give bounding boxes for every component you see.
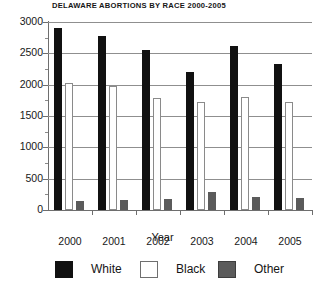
bar-other-2003 — [208, 192, 216, 210]
y-axis-label-0: 0 — [1, 204, 43, 215]
bar-group-2002 — [136, 22, 180, 210]
bar-chart: DELAWARE ABORTIONS BY RACE 2000-2005 050… — [0, 0, 325, 301]
bar-black-2004 — [241, 97, 249, 210]
chart-title: DELAWARE ABORTIONS BY RACE 2000-2005 — [52, 1, 302, 10]
y-axis-label-1500: 1500 — [1, 110, 43, 121]
y-tick-0 — [43, 210, 48, 211]
x-axis-title: Year — [0, 231, 325, 243]
bar-group-2001 — [92, 22, 136, 210]
bar-group-2004 — [224, 22, 268, 210]
hollow-white-swatch — [140, 261, 158, 278]
plot-area: 200020012002200320042005 — [48, 22, 312, 210]
solid-black-swatch — [55, 261, 73, 278]
bar-black-2001 — [109, 86, 117, 210]
bar-group-2005 — [268, 22, 312, 210]
bar-other-2002 — [164, 199, 172, 210]
bar-other-2005 — [296, 198, 304, 210]
y-axis-label-500: 500 — [1, 173, 43, 184]
bar-black-2000 — [65, 83, 73, 210]
bar-white-2004 — [230, 46, 238, 210]
x-tick-2004 — [268, 210, 269, 215]
bar-black-2002 — [153, 98, 161, 210]
y-axis-label-2000: 2000 — [1, 79, 43, 90]
bar-black-2005 — [285, 102, 293, 210]
bar-group-2000 — [48, 22, 92, 210]
y-axis-label-2500: 2500 — [1, 47, 43, 58]
bar-other-2004 — [252, 197, 260, 210]
y-axis-label-3000: 3000 — [1, 16, 43, 27]
x-tick-2005 — [312, 210, 313, 215]
legend-label-black: Black — [176, 261, 205, 278]
bar-other-2000 — [76, 201, 84, 210]
bar-white-2000 — [54, 28, 62, 210]
chart-legend: WhiteBlackOther — [0, 258, 325, 288]
bar-white-2002 — [142, 50, 150, 210]
bar-other-2001 — [120, 200, 128, 210]
legend-label-white: White — [91, 261, 122, 278]
y-axis-label-1000: 1000 — [1, 141, 43, 152]
x-tick-2002 — [180, 210, 181, 215]
x-tick-2000 — [92, 210, 93, 215]
x-tick-2003 — [224, 210, 225, 215]
bar-white-2005 — [274, 64, 282, 210]
bar-group-2003 — [180, 22, 224, 210]
x-tick-2001 — [136, 210, 137, 215]
legend-label-other: Other — [254, 261, 284, 278]
solid-gray-swatch — [218, 261, 236, 278]
bar-white-2001 — [98, 36, 106, 210]
bar-black-2003 — [197, 102, 205, 210]
bar-white-2003 — [186, 72, 194, 210]
